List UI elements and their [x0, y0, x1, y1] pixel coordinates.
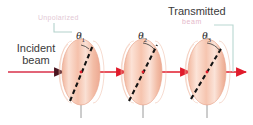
theta-1-label: θ1: [76, 30, 85, 45]
incident-beam-label-line1: Incident: [10, 43, 62, 55]
incident-beam-label-line2: beam: [10, 55, 62, 67]
polarizer-1-center-dot: [80, 71, 83, 74]
unpolarized-label: Unpolarized: [38, 14, 79, 21]
incident-beam-label: Incident beam: [10, 43, 62, 66]
polarizer-1: [59, 33, 104, 118]
theta-3-label: θ3: [202, 30, 211, 45]
theta-2-subscript: 2: [143, 36, 147, 44]
polarizer-diagram: Unpolarized Incident beam Transmitted be…: [0, 0, 253, 125]
transmitted-beam-label-line2: beam: [182, 18, 202, 25]
polarizer-3: [185, 33, 230, 118]
transmitted-beam-label: Transmitted: [168, 6, 226, 18]
polarizer-3-center-dot: [206, 71, 209, 74]
left-leader-bracket: [54, 23, 72, 32]
polarizer-2: [121, 33, 166, 118]
theta-2-label: θ2: [138, 30, 147, 45]
theta-1-subscript: 1: [81, 36, 85, 44]
theta-3-subscript: 3: [207, 36, 211, 44]
polarizer-2-center-dot: [142, 71, 145, 74]
